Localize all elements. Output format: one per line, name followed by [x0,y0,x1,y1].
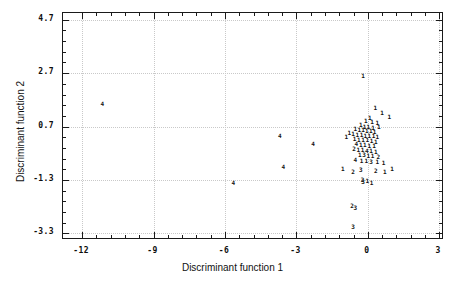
data-point-group-1: 1 [360,158,364,164]
x-tick-minor [139,235,140,238]
x-tick-minor [282,13,283,16]
x-tick-minor [396,235,397,238]
data-point-group-3: 3 [359,167,363,173]
gridline-vertical [82,13,83,238]
x-tick-major [296,13,297,19]
x-tick-minor [211,13,212,16]
x-axis-title: Discriminant function 1 [0,262,465,273]
y-tick-minor [439,212,442,213]
x-tick-minor [182,235,183,238]
x-tick-minor [425,13,426,16]
x-tick-minor [325,235,326,238]
x-tick-major [154,232,155,238]
gridline-horizontal [63,73,442,74]
y-tick-minor [63,41,66,42]
x-tick-major [439,13,440,19]
x-tick-minor [254,235,255,238]
y-tick-major [63,180,69,181]
x-tick-label: -9 [147,247,157,255]
x-tick-minor [196,13,197,16]
y-tick-major [63,127,69,128]
gridline-horizontal [63,233,442,234]
data-point-group-1: 1 [365,178,369,184]
y-tick-major [436,20,442,21]
x-tick-minor [354,13,355,16]
y-tick-minor [63,105,66,106]
x-tick-major [154,13,155,19]
data-point-group-2: 2 [352,146,356,152]
gridline-vertical [225,13,226,238]
data-point-group-3: 3 [354,205,358,211]
gridline-vertical [296,13,297,238]
data-point-group-4: 4 [278,133,282,139]
x-tick-label: -6 [219,247,229,255]
x-tick-major [296,232,297,238]
x-tick-label: -12 [73,247,89,255]
data-point-group-2: 2 [374,168,378,174]
x-tick-minor [182,13,183,16]
y-tick-minor [439,116,442,117]
data-point-group-1: 1 [390,166,394,172]
gridline-horizontal [63,20,442,21]
x-tick-label: -3 [290,247,300,255]
y-tick-minor [439,52,442,53]
data-point-group-1: 1 [387,114,391,120]
y-tick-minor [439,191,442,192]
y-tick-minor [63,137,66,138]
x-tick-label: 3 [436,247,441,255]
y-tick-minor [439,62,442,63]
x-tick-minor [111,13,112,16]
plot-frame: 4444411111111111111111111111111111141111… [62,12,443,239]
data-point-group-2: 2 [351,169,355,175]
x-tick-minor [382,235,383,238]
y-tick-minor [63,159,66,160]
data-point-group-1: 1 [365,158,369,164]
data-point-group-1: 1 [382,160,386,166]
x-tick-minor [311,235,312,238]
y-tick-minor [439,41,442,42]
x-tick-minor [125,235,126,238]
x-tick-minor [125,13,126,16]
x-tick-major [82,232,83,238]
y-tick-major [63,233,69,234]
y-tick-minor [63,62,66,63]
x-tick-major [368,13,369,19]
data-point-group-4: 4 [100,101,104,107]
data-point-group-3: 3 [361,179,365,185]
x-tick-minor [339,13,340,16]
y-tick-minor [63,201,66,202]
x-tick-minor [425,235,426,238]
data-point-group-4: 4 [231,180,235,186]
x-tick-major [82,13,83,19]
x-tick-minor [139,13,140,16]
x-tick-minor [168,13,169,16]
y-tick-major [436,127,442,128]
x-tick-minor [196,235,197,238]
y-tick-minor [439,169,442,170]
y-tick-minor [63,52,66,53]
x-tick-minor [96,13,97,16]
y-tick-major [436,180,442,181]
x-tick-minor [282,235,283,238]
x-tick-minor [239,235,240,238]
y-axis-title: Discriminant function 2 [15,42,26,222]
x-tick-minor [382,13,383,16]
y-tick-minor [63,169,66,170]
data-point-group-1: 1 [370,180,374,186]
x-tick-major [225,232,226,238]
x-tick-minor [354,235,355,238]
data-point-group-4: 4 [354,157,358,163]
data-point-group-3: 3 [351,224,355,230]
x-tick-major [368,232,369,238]
x-tick-label: 0 [364,247,369,255]
y-tick-minor [63,84,66,85]
data-point-group-4: 4 [281,164,285,170]
y-tick-minor [439,137,442,138]
data-point-group-1: 1 [375,159,379,165]
gridline-vertical [154,13,155,238]
x-tick-major [225,13,226,19]
y-tick-minor [439,148,442,149]
x-tick-minor [96,235,97,238]
plot-area: 4444411111111111111111111111111111141111… [63,13,442,238]
data-point-group-1: 1 [361,73,365,79]
